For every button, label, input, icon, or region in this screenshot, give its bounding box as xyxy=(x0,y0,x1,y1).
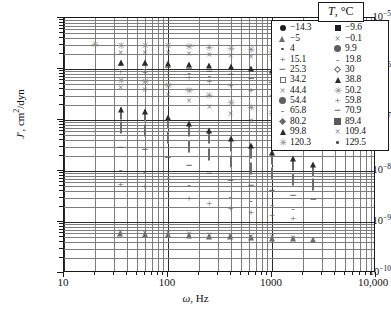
marker-star-icon: ✳ xyxy=(141,76,149,87)
marker-open-square-icon xyxy=(280,77,286,83)
marker-filled-triangle-icon xyxy=(228,125,234,141)
y-axis-tick-mark xyxy=(59,76,63,77)
legend-marker-right: × xyxy=(331,127,344,137)
marker-cross-x-icon: × xyxy=(228,230,234,241)
x-tick-label-10: 10 xyxy=(58,276,69,288)
marker-plus-icon: + xyxy=(206,196,212,208)
marker-filled-triangle-icon xyxy=(206,118,212,134)
data-point xyxy=(120,123,122,132)
y-axis-tick-mark xyxy=(59,190,63,191)
marker-minus-icon: − xyxy=(248,178,255,192)
marker-open-diamond-icon xyxy=(188,140,190,152)
y-axis-tick-mark xyxy=(59,241,63,242)
marker-minus-icon: − xyxy=(248,71,255,85)
y-axis-tick-mark xyxy=(59,25,63,26)
y-axis-tick-mark xyxy=(59,70,63,71)
legend-marker-left xyxy=(276,75,289,85)
data-point: ✳ xyxy=(247,45,255,55)
gridline-horizontal xyxy=(64,258,374,259)
data-point: ✳ xyxy=(185,86,193,96)
marker-plus-icon: + xyxy=(290,212,296,224)
y-axis-tick-mark xyxy=(59,104,63,105)
marker-star-icon: ✳ xyxy=(185,85,193,96)
gridline-horizontal xyxy=(64,171,374,172)
legend-row: 49.9 xyxy=(276,44,385,54)
marker-dash-icon: - xyxy=(143,165,147,177)
y-axis-tick-mark xyxy=(57,170,63,171)
marker-plus-icon: + xyxy=(269,208,275,220)
legend-marker-left: - xyxy=(276,106,289,116)
marker-filled-triangle-icon xyxy=(142,98,148,114)
data-point: × xyxy=(165,228,171,238)
gridline-horizontal xyxy=(64,176,374,177)
x-axis-tick-mark xyxy=(266,272,267,275)
data-point: - xyxy=(187,178,191,189)
marker-filled-triangle-icon xyxy=(248,132,254,148)
y-axis-tick-mark xyxy=(59,127,63,128)
marker-minus-icon: − xyxy=(290,188,297,202)
y-axis-tick-mark xyxy=(59,53,63,54)
y-axis-tick-mark xyxy=(59,37,63,38)
marker-open-diamond-icon xyxy=(144,124,146,136)
legend-value-right: 109.4 xyxy=(344,127,385,137)
data-point xyxy=(188,126,190,135)
data-point: − xyxy=(227,68,234,80)
marker-cross-x-icon: × xyxy=(269,231,275,242)
y-axis-tick-mark xyxy=(59,95,63,96)
marker-cross-x-icon: × xyxy=(186,228,192,239)
y-axis-tick-mark xyxy=(57,221,63,222)
marker-open-diamond-icon xyxy=(334,66,341,73)
marker-minus-icon: − xyxy=(269,183,276,197)
data-point xyxy=(165,105,171,114)
marker-open-diamond-icon xyxy=(271,168,273,180)
legend-table: −14.3−9.6−5×−0.149.9+15.1-19.8−25.33034.… xyxy=(276,23,385,148)
marker-minus-icon: − xyxy=(141,142,148,156)
marker-open-diamond-icon xyxy=(230,156,232,168)
legend-value-left: −5 xyxy=(289,33,331,43)
gridline-horizontal xyxy=(64,198,374,199)
x-tick-label-1000: 1000 xyxy=(260,276,282,288)
marker-gray-diamond-icon xyxy=(279,118,286,125)
data-point xyxy=(206,119,212,128)
y-axis-tick-mark xyxy=(59,248,63,249)
marker-star-icon: ✳ xyxy=(227,43,235,54)
y-axis-tick-mark xyxy=(59,83,63,84)
legend-row: ✳120.3129.5 xyxy=(276,137,385,147)
x-tick-label-100: 100 xyxy=(159,276,176,288)
legend-title-units: , °C xyxy=(335,4,354,18)
x-axis-tick-mark xyxy=(365,272,366,275)
y-axis-tick-mark xyxy=(59,226,63,227)
y-axis-tick-mark xyxy=(59,73,63,74)
legend-value-right: 129.5 xyxy=(344,137,385,147)
marker-minus-icon: − xyxy=(186,158,193,172)
y-axis-label-exponent: 2 xyxy=(12,109,21,113)
x-axis-tick-mark xyxy=(261,272,262,275)
marker-open-square-icon xyxy=(230,139,232,151)
y-axis-tick-mark xyxy=(59,206,63,207)
data-point: × xyxy=(228,231,234,241)
data-point: × xyxy=(207,102,213,112)
legend-row: -65.8−70.9 xyxy=(276,106,385,116)
data-point xyxy=(310,152,316,161)
legend-marker-right: - xyxy=(331,54,344,64)
legend-value-right: 9.9 xyxy=(344,44,385,54)
marker-star-icon: ✳ xyxy=(227,97,235,108)
marker-cross-x-icon: × xyxy=(248,231,254,242)
data-point: ✳ xyxy=(205,91,213,101)
marker-filled-triangle-icon xyxy=(165,104,171,120)
x-axis-tick-mark xyxy=(255,272,256,275)
marker-dash-icon: - xyxy=(208,184,212,196)
data-point xyxy=(144,126,146,135)
gridline-horizontal xyxy=(64,227,374,228)
x-tick-label-10000: 10,000 xyxy=(358,276,388,288)
marker-dash-icon: - xyxy=(166,171,170,183)
y-axis-tick-mark xyxy=(59,22,63,23)
legend-title-symbol: T xyxy=(328,4,335,18)
y-axis-label-units: , cm xyxy=(14,113,26,132)
data-point: - xyxy=(229,190,233,201)
x-axis-tick-mark xyxy=(321,272,322,275)
x-axis-tick-mark xyxy=(344,272,345,275)
data-point: − xyxy=(165,151,172,163)
marker-dash-icon: - xyxy=(229,189,233,201)
legend-marker-left xyxy=(276,33,289,43)
